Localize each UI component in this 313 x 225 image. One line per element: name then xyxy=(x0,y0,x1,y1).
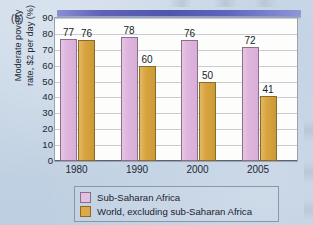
bar-2000-series-2 xyxy=(199,82,216,161)
gridline-90 xyxy=(55,18,297,19)
bar-1980-series-2 xyxy=(78,40,95,161)
bar-1990-series-2 xyxy=(139,66,156,161)
x-tick-label-2000: 2000 xyxy=(186,164,208,175)
legend-label-sub-saharan-africa: Sub-Saharan Africa xyxy=(97,192,180,203)
legend-label-world-excluding: World, excluding sub-Saharan Africa xyxy=(97,206,252,217)
bar-2000-series-1 xyxy=(181,40,198,161)
y-tick-label-0: 0 xyxy=(33,155,53,166)
bar-1980-series-1 xyxy=(60,39,77,161)
legend-swatch-world-excluding xyxy=(80,206,91,217)
x-tick-label-1990: 1990 xyxy=(126,164,148,175)
y-axis-tick-labels: 9080706050403020100 xyxy=(33,14,53,162)
bar-value-1990-series-1: 78 xyxy=(123,25,134,36)
bar-value-1990-series-2: 60 xyxy=(141,54,152,65)
legend-item-world-excluding: World, excluding sub-Saharan Africa xyxy=(80,204,274,218)
y-tick-label-50: 50 xyxy=(33,75,53,86)
figure-panel: (b) Moderate poverty rate, $2 per day (%… xyxy=(0,0,313,225)
legend-item-sub-saharan-africa: Sub-Saharan Africa xyxy=(80,190,274,204)
bar-value-2000-series-1: 76 xyxy=(184,28,195,39)
bar-value-2005-series-1: 72 xyxy=(244,35,255,46)
chart-legend: Sub-Saharan Africa World, excluding sub-… xyxy=(74,186,279,222)
y-tick-label-20: 20 xyxy=(33,123,53,134)
y-tick-label-30: 30 xyxy=(33,107,53,118)
bar-value-2000-series-2: 50 xyxy=(202,70,213,81)
page-bleed-right-artifact xyxy=(304,120,313,220)
plot-area: 7776786076507241 xyxy=(54,17,298,162)
y-tick-label-40: 40 xyxy=(33,91,53,102)
bar-value-1980-series-1: 77 xyxy=(63,27,74,38)
y-tick-label-10: 10 xyxy=(33,139,53,150)
legend-swatch-sub-saharan-africa xyxy=(80,192,91,203)
x-tick-label-1980: 1980 xyxy=(65,164,87,175)
bar-2005-series-1 xyxy=(242,47,259,161)
y-tick-label-60: 60 xyxy=(33,59,53,70)
y-tick-label-80: 80 xyxy=(33,27,53,38)
bar-value-2005-series-2: 41 xyxy=(262,84,273,95)
y-tick-label-90: 90 xyxy=(33,12,53,23)
bar-value-1980-series-2: 76 xyxy=(81,28,92,39)
x-axis-tick-labels: 1980199020002005 xyxy=(54,164,298,178)
plot-inner: 7776786076507241 xyxy=(55,18,297,161)
bar-1990-series-1 xyxy=(121,37,138,161)
page-bleed-top-artifact xyxy=(168,0,288,7)
y-axis-title-line-1: Moderate poverty xyxy=(13,0,25,108)
bar-2005-series-2 xyxy=(260,96,277,161)
y-tick-label-70: 70 xyxy=(33,43,53,54)
x-tick-label-2005: 2005 xyxy=(247,164,269,175)
